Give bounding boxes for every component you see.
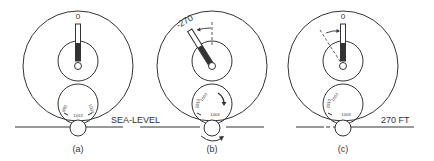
subscale-label-upper: 1003 xyxy=(199,91,209,102)
setting-knob xyxy=(204,120,220,136)
arrowhead-icon xyxy=(337,29,341,33)
panel-c: 0 1013 1003 1003 270 FT (c) xyxy=(288,11,414,154)
setting-knob xyxy=(70,120,86,136)
caption-b: (b) xyxy=(207,144,218,154)
panel-a: 0 993 1013 1003 SEA-LEVEL (a) xyxy=(15,11,160,154)
arrowhead-icon xyxy=(222,102,227,106)
needle-zero-label: 0 xyxy=(76,12,81,21)
needle-fill xyxy=(341,43,346,61)
knob-rotation-arrow-icon xyxy=(201,136,222,141)
setting-knob xyxy=(335,120,351,136)
arrowhead-icon xyxy=(219,136,224,141)
needle-pivot xyxy=(209,63,216,70)
needle-pivot xyxy=(75,63,82,70)
panel-b: -270 1013 1003 1003 (b) xyxy=(140,11,267,154)
subscale-label-center: 1013 xyxy=(73,113,83,118)
altitude-label: 270 FT xyxy=(381,115,410,125)
caption-a: (a) xyxy=(73,144,84,154)
subscale-label-center: 1003 xyxy=(210,112,220,117)
subscale-label-left: 993 xyxy=(61,104,68,113)
caption-c: (c) xyxy=(338,144,349,154)
altimeter-diagram: 0 993 1013 1003 SEA-LEVEL (a) -270 1013 … xyxy=(0,0,434,161)
subscale-tick xyxy=(328,113,332,115)
sea-level-label: SEA-LEVEL xyxy=(111,115,160,125)
subscale-tick xyxy=(64,113,68,115)
subscale-label-right: 1003 xyxy=(87,103,95,114)
subscale-label-upper: 1003 xyxy=(330,91,340,102)
needle-pivot xyxy=(340,63,347,70)
subscale-label-center: 1003 xyxy=(341,112,351,117)
needle-fill xyxy=(76,43,81,61)
subscale-tick xyxy=(197,113,201,115)
needle-zero-label: 0 xyxy=(341,12,346,21)
